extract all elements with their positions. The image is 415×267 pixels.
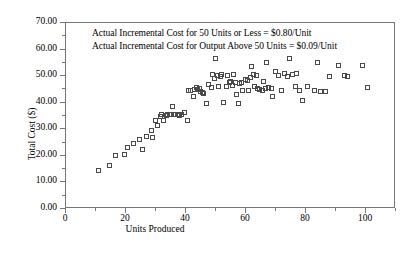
data-point — [150, 135, 155, 140]
data-point — [225, 73, 230, 78]
data-point — [360, 63, 365, 68]
data-point — [264, 60, 269, 65]
x-tick-minor — [395, 208, 396, 211]
data-point — [279, 88, 284, 93]
data-point — [182, 110, 187, 115]
data-point — [221, 100, 226, 105]
x-tick-label: 60 — [225, 213, 265, 223]
x-tick-label: 80 — [285, 213, 325, 223]
data-point — [315, 60, 320, 65]
data-point — [155, 123, 160, 128]
x-tick-label: 20 — [105, 213, 145, 223]
data-point — [131, 141, 136, 146]
data-point — [185, 118, 190, 123]
x-axis-title: Units Produced — [0, 224, 415, 234]
data-point — [249, 64, 254, 69]
plot-frame: Actual Incremental Cost for 50 Units or … — [65, 22, 395, 208]
data-point — [96, 168, 101, 173]
y-tick-label: 60.00 — [0, 43, 57, 53]
data-point — [327, 74, 332, 79]
data-point — [191, 94, 196, 99]
data-point — [209, 85, 214, 90]
data-point — [224, 84, 229, 89]
data-point — [201, 91, 206, 96]
data-point — [236, 101, 241, 106]
data-point — [323, 89, 328, 94]
chart-page: Total Cost ($) 0.0010.0020.0030.0040.005… — [0, 0, 415, 267]
data-point — [161, 118, 166, 123]
data-point — [231, 72, 236, 77]
data-point — [276, 73, 281, 78]
data-point — [246, 88, 251, 93]
y-tick-label: 30.00 — [0, 122, 57, 132]
y-tick-label: 10.00 — [0, 175, 57, 185]
data-point — [269, 86, 274, 91]
data-point — [213, 56, 218, 61]
y-tick-label: 40.00 — [0, 96, 57, 106]
data-point — [216, 84, 221, 89]
x-tick-minor — [215, 208, 216, 211]
data-point — [297, 88, 302, 93]
y-tick-label: 50.00 — [0, 69, 57, 79]
data-point — [122, 152, 127, 157]
y-tick-label: 20.00 — [0, 149, 57, 159]
data-point — [140, 147, 145, 152]
data-point — [254, 73, 259, 78]
data-point — [113, 153, 118, 158]
y-tick-label: 0.00 — [0, 202, 57, 212]
x-tick-minor — [155, 208, 156, 211]
x-tick-minor — [95, 208, 96, 211]
data-point — [287, 56, 292, 61]
data-point — [149, 128, 154, 133]
scatter-plot-area — [66, 23, 394, 207]
data-point — [170, 104, 175, 109]
data-point — [144, 134, 149, 139]
data-point — [300, 98, 305, 103]
data-point — [261, 79, 266, 84]
data-point — [294, 71, 299, 76]
data-point — [219, 72, 224, 77]
x-tick-minor — [275, 208, 276, 211]
data-point — [270, 94, 275, 99]
data-point — [234, 92, 239, 97]
x-tick-label: 40 — [165, 213, 205, 223]
data-point — [305, 84, 310, 89]
data-point — [312, 88, 317, 93]
data-point — [204, 101, 209, 106]
data-point — [336, 63, 341, 68]
data-point — [240, 88, 245, 93]
data-point — [125, 145, 130, 150]
data-point — [137, 137, 142, 142]
data-point — [345, 74, 350, 79]
data-point — [107, 163, 112, 168]
x-tick-label: 100 — [345, 213, 385, 223]
x-tick-minor — [335, 208, 336, 211]
x-tick-label: 0 — [45, 213, 85, 223]
y-tick-label: 70.00 — [0, 16, 57, 26]
data-point — [365, 85, 370, 90]
